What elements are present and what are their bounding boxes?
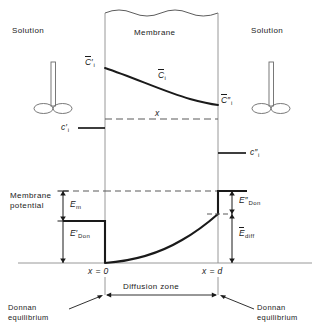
- donnan-left-label: Donnan equilibrium: [8, 303, 49, 323]
- e-don-right-measure-arrow: [227, 191, 238, 214]
- e-don-left-measure-arrow: [60, 221, 66, 263]
- donnan-left-line2: equilibrium: [8, 313, 49, 323]
- inner-right-concentration-label: C″i: [221, 95, 233, 105]
- diffusion-potential-curve: [105, 214, 218, 263]
- diffusion-zone-label: Diffusion zone: [123, 282, 179, 291]
- e-don-left-sub: Don: [78, 233, 90, 239]
- e-diff-label: Ediff: [239, 228, 255, 238]
- left-stirrer-icon: [34, 62, 72, 114]
- e-m-sub: m: [76, 204, 81, 210]
- e-don-right-label: E″Don: [239, 195, 261, 205]
- e-m-measure-arrow: [58, 191, 69, 221]
- donnan-right-label: Donnan equilibrium: [257, 303, 298, 323]
- concentration-curve-label: Ci: [158, 70, 166, 80]
- x-axis-label: x: [155, 108, 160, 118]
- donnan-right-line1: Donnan: [257, 303, 298, 313]
- e-don-left-label: E′Don: [70, 228, 90, 238]
- e-diff-sub: diff: [245, 233, 255, 239]
- inner-left-concentration-symbol: C: [85, 57, 92, 67]
- membrane-potential-panel-label: Membrane potential: [10, 191, 51, 211]
- donnan-left-line1: Donnan: [8, 303, 49, 313]
- donnan-left-leader-line: [69, 295, 103, 309]
- donnan-right-leader-line: [220, 295, 254, 309]
- membrane-potential-label-line1: Membrane: [10, 191, 51, 201]
- concentration-curve-symbol: C: [158, 70, 165, 80]
- membrane-label: Membrane: [134, 28, 175, 37]
- diffusion-zone-arrow: [106, 292, 217, 297]
- inner-right-concentration-symbol: C: [221, 95, 228, 105]
- e-don-right-prime: ″: [245, 195, 248, 205]
- inner-right-concentration-sub: i: [231, 100, 233, 106]
- left-solution-label: Solution: [12, 26, 44, 35]
- membrane-top-wavy-edge: [105, 10, 218, 16]
- inner-left-concentration-sub: i: [94, 62, 96, 68]
- e-m-label: Em: [70, 199, 81, 209]
- inner-left-concentration-label: C′i: [85, 57, 95, 67]
- outer-right-concentration-sub: i: [258, 152, 260, 158]
- outer-left-concentration-label: c′i: [61, 122, 69, 132]
- membrane-potential-label-line2: potential: [10, 201, 51, 211]
- e-diff-measure-arrow: [229, 214, 235, 263]
- x-d-label: x = d: [202, 266, 223, 276]
- outer-right-concentration-label: c″i: [250, 147, 260, 157]
- right-stirrer-icon: [252, 62, 290, 114]
- membrane-potential-diagram: [0, 0, 323, 324]
- x-zero-label: x = 0: [88, 266, 109, 276]
- right-solution-label: Solution: [251, 26, 283, 35]
- donnan-right-line2: equilibrium: [257, 313, 298, 323]
- outer-left-concentration-sub: i: [68, 127, 70, 133]
- e-don-right-sub: Don: [249, 200, 261, 206]
- concentration-curve-sub: i: [165, 75, 167, 81]
